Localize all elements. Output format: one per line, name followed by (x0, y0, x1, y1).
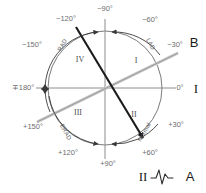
axis-region-label-group: RAD LAD Normal ERAD (56, 37, 156, 142)
degree-label-plus-120: +120° (58, 148, 78, 157)
degree-label-minus-90: −90° (97, 4, 113, 13)
degree-label-minus-60: −60° (142, 15, 158, 24)
dark-axis-vector (76, 27, 143, 138)
lead-two-label: II (139, 169, 148, 184)
arc-arrow-lower-right (112, 124, 158, 144)
ecg-waveform-icon (151, 170, 173, 184)
degree-label-minus-120: −120° (56, 14, 76, 23)
marker-a-letter: A (186, 169, 195, 184)
axis-region-label-erad: ERAD (59, 123, 73, 142)
degree-label-plus-60: +60° (142, 148, 158, 157)
degree-label-group: −90° −60° −30° 0° +30° +60° +90° +120° +… (12, 4, 184, 168)
degree-label-zero: 0° (176, 83, 183, 92)
degree-label-minus-150: −150° (22, 40, 42, 49)
quadrant-label-iii: III (74, 108, 82, 117)
degree-label-minus-30: −30° (167, 40, 183, 49)
degree-label-plus-30: +30° (168, 120, 184, 129)
marker-b-letter: B (190, 35, 199, 50)
degree-label-180: ∓180° (12, 83, 35, 92)
quadrant-label-i: I (135, 56, 138, 65)
axis-region-label-rad: RAD (56, 37, 68, 52)
degree-label-plus-150: +150° (23, 122, 43, 131)
arc-arrow-upper-left (45, 32, 98, 112)
lead-one-label: I (194, 81, 198, 96)
quadrant-label-ii: II (131, 110, 137, 119)
degree-label-plus-90: +90° (100, 159, 116, 168)
cardiac-axis-figure: −90° −60° −30° 0° +30° +60° +90° +120° +… (0, 0, 206, 193)
quadrant-label-iv: IV (76, 55, 85, 64)
hexaxial-reference-diagram: −90° −60° −30° 0° +30° +60° +90° +120° +… (0, 0, 206, 193)
